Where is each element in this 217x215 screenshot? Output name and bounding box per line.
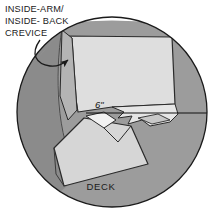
callout-line-3: CREVICE — [5, 28, 47, 38]
upholstery-detail-illustration: 6" DECK INSIDE-ARM/ INSIDE- BACK CREVICE — [0, 0, 217, 215]
figure-container: 6" DECK INSIDE-ARM/ INSIDE- BACK CREVICE — [0, 0, 217, 215]
inside-back-panel — [66, 36, 175, 112]
deck-label: DECK — [87, 181, 116, 192]
detail-circle-group: 6" DECK — [8, 17, 214, 215]
callout-line-1: INSIDE-ARM/ — [5, 4, 64, 14]
dimension-label: 6" — [95, 99, 104, 110]
callout-line-2: INSIDE- BACK — [5, 16, 69, 26]
